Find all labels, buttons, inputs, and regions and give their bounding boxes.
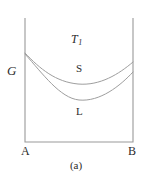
liquid-phase-label: L	[76, 106, 83, 117]
x-axis-label-a: A	[21, 145, 30, 157]
x-axis-label-b: B	[128, 145, 136, 157]
temperature-symbol: T	[71, 32, 78, 46]
solid-phase-label: S	[76, 63, 82, 74]
y-axis-label: G	[7, 64, 16, 77]
figure-caption: (a)	[0, 160, 152, 171]
temperature-label: T1	[71, 33, 82, 47]
free-energy-composition-figure: G T1 S L A B (a)	[0, 0, 152, 177]
temperature-subscript: 1	[78, 38, 82, 47]
liquid-phase-curve	[25, 54, 133, 100]
